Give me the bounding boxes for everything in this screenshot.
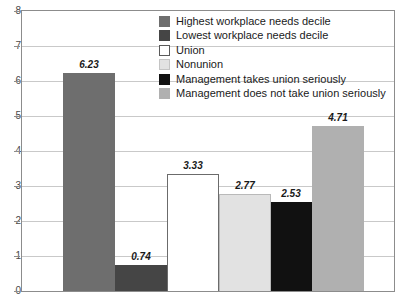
bar-value-label: 3.33 xyxy=(183,161,202,171)
y-axis-tick xyxy=(14,116,20,117)
legend-swatch-icon xyxy=(159,45,170,56)
y-axis-tick xyxy=(14,151,20,152)
legend-swatch-icon xyxy=(159,30,170,41)
legend-item-label: Lowest workplace needs decile xyxy=(176,30,328,41)
legend-item-label: Management does not take union seriously xyxy=(176,88,386,99)
bar-management-does-not-take-union-seriously xyxy=(312,126,364,291)
legend-item: Lowest workplace needs decile xyxy=(159,29,399,44)
legend-item: Union xyxy=(159,43,399,58)
bar-value-label: 2.53 xyxy=(281,189,300,199)
bar-value-label: 0.74 xyxy=(131,252,150,262)
legend-item: Nonunion xyxy=(159,58,399,73)
legend-item-label: Nonunion xyxy=(176,59,223,70)
legend-item: Highest workplace needs decile xyxy=(159,14,399,29)
bar-chart: 8 7 6 5 4 3 2 1 0 6.23 0.74 xyxy=(0,0,403,305)
legend-swatch-icon xyxy=(159,74,170,85)
bar-value-label: 6.23 xyxy=(79,60,98,70)
bar-nonunion xyxy=(219,194,271,291)
y-axis-tick xyxy=(14,291,20,292)
bar-value-label: 4.71 xyxy=(328,113,347,123)
legend-swatch-icon xyxy=(159,88,170,99)
bar-union xyxy=(167,174,219,291)
y-axis-tick xyxy=(14,186,20,187)
legend-item-label: Management takes union seriously xyxy=(176,74,346,85)
bar-lowest-workplace-needs-decile xyxy=(115,265,167,291)
chart-legend: Highest workplace needs decile Lowest wo… xyxy=(159,14,399,101)
legend-swatch-icon xyxy=(159,16,170,27)
y-axis-tick xyxy=(14,221,20,222)
y-axis-tick xyxy=(14,46,20,47)
y-axis-tick xyxy=(14,256,20,257)
bar-value-label: 2.77 xyxy=(235,181,254,191)
legend-item: Management does not take union seriously xyxy=(159,87,399,102)
y-axis-tick xyxy=(14,81,20,82)
plot-area: 6.23 0.74 3.33 2.77 2.53 4.71 Highest wo… xyxy=(21,10,395,292)
legend-swatch-icon xyxy=(159,59,170,70)
legend-item: Management takes union seriously xyxy=(159,72,399,87)
bar-highest-workplace-needs-decile xyxy=(63,73,115,291)
y-axis-tick xyxy=(14,11,20,12)
legend-item-label: Union xyxy=(176,45,205,56)
legend-item-label: Highest workplace needs decile xyxy=(176,16,331,27)
y-axis: 8 7 6 5 4 3 2 1 0 xyxy=(0,0,21,305)
bar-management-takes-union-seriously xyxy=(271,202,312,291)
